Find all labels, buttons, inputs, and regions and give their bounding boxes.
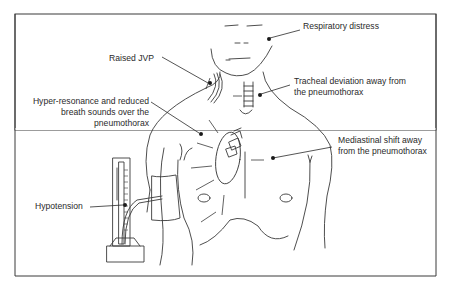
- trachea-icon: [244, 82, 253, 107]
- label-hyper-resonance-2: breath sounds over the: [61, 107, 149, 118]
- label-tracheal-deviation-1: Tracheal deviation away from: [294, 76, 406, 87]
- raised-jvp-marker: [208, 81, 212, 85]
- human-torso-illustration: [146, 25, 332, 265]
- label-mediastinal-shift-1: Mediastinal shift away: [338, 135, 422, 146]
- label-hypotension: Hypotension: [35, 201, 83, 212]
- label-hyper-resonance-1: Hyper-resonance and reduced: [33, 96, 149, 107]
- label-mediastinal-shift-2: from the pneumothorax: [338, 146, 427, 157]
- hyper-resonance-marker: [199, 132, 203, 136]
- label-tracheal-deviation-2: the pneumothorax: [294, 87, 363, 98]
- label-raised-jvp: Raised JVP: [109, 53, 154, 64]
- hypotension-marker: [123, 203, 127, 207]
- respiratory-distress-marker: [267, 37, 271, 41]
- tracheal-deviation-marker: [258, 93, 262, 97]
- label-respiratory-distress: Respiratory distress: [303, 21, 379, 32]
- label-hyper-resonance-3: pneumothorax: [94, 118, 149, 129]
- sphygmomanometer-icon: [107, 158, 162, 262]
- heart-icon: [212, 128, 243, 185]
- mediastinal-shift-marker: [271, 156, 275, 160]
